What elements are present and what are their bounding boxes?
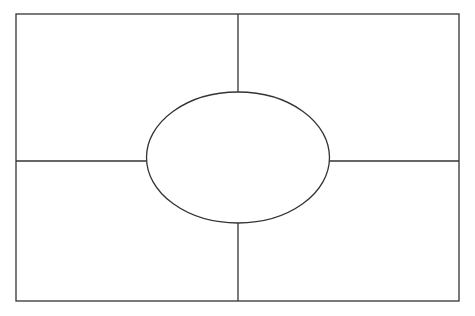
four-square-diagram xyxy=(0,0,475,316)
center-ellipse xyxy=(147,92,330,223)
